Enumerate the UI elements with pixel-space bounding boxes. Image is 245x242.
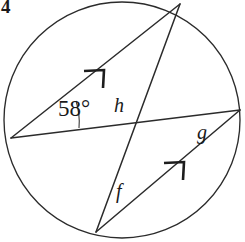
geometry-figure: 4 58° h g f [0, 0, 245, 242]
question-number: 4 [1, 0, 11, 16]
angle-label-h: h [114, 95, 124, 115]
figure-canvas [0, 0, 245, 242]
circle-outline [4, 2, 240, 238]
angle-label-58: 58° [58, 97, 90, 120]
angle-label-g: g [197, 122, 207, 142]
angle-label-f: f [116, 181, 122, 201]
